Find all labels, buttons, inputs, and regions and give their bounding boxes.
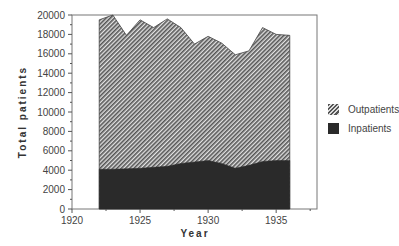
y-axis-title: Total patients [17, 66, 28, 158]
legend: Outpatients Inpatients [328, 100, 399, 138]
data-areas [99, 15, 290, 209]
x-tick-label: 1920 [61, 215, 84, 226]
x-tick-label: 1925 [129, 215, 152, 226]
y-tick-label: 4000 [43, 165, 66, 176]
y-tick-label: 0 [59, 204, 65, 215]
y-tick-label: 2000 [43, 184, 66, 195]
y-tick-label: 18000 [37, 29, 65, 40]
x-tick-label: 1930 [197, 215, 220, 226]
y-tick-label: 6000 [43, 145, 66, 156]
legend-label: Outpatients [348, 104, 399, 115]
solid-swatch-icon [328, 123, 339, 134]
legend-item-inpatients: Inpatients [328, 119, 399, 138]
y-axis: 0200040006000800010000120001400016000180… [37, 10, 72, 215]
y-tick-label: 14000 [37, 68, 65, 79]
y-tick-label: 20000 [37, 10, 65, 21]
hatched-swatch-icon [328, 104, 339, 115]
x-tick-label: 1935 [265, 215, 288, 226]
x-axis-title: Year [180, 228, 209, 239]
legend-label: Inpatients [348, 123, 391, 134]
y-tick-label: 8000 [43, 126, 66, 137]
legend-item-outpatients: Outpatients [328, 100, 399, 119]
y-tick-label: 10000 [37, 107, 65, 118]
x-axis: 1920192519301935 [61, 209, 310, 226]
y-tick-label: 16000 [37, 48, 65, 59]
y-tick-label: 12000 [37, 87, 65, 98]
